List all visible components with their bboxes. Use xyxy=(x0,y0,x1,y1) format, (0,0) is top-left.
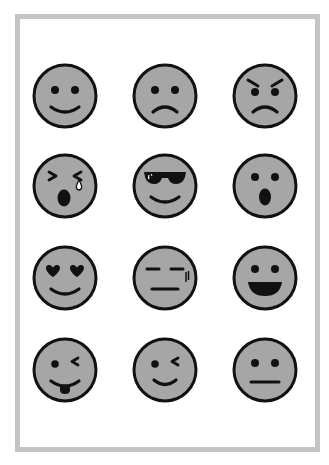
winking-face-icon: Winking face xyxy=(131,336,199,404)
grinning-face-icon: Grinning face with open mouth xyxy=(231,244,299,312)
crying-face-icon: Crying face with tear xyxy=(31,152,99,220)
neutral-face-icon: Neutral face xyxy=(231,336,299,404)
sunglasses-face-icon: Smiling face with sunglasses xyxy=(131,152,199,220)
surprised-face-icon: Surprised face xyxy=(231,152,299,220)
winking-tongue-face-icon: Winking face with tongue xyxy=(31,336,99,404)
smiling-face-icon: Smiling face xyxy=(31,62,99,130)
angry-face-icon: Angry face xyxy=(231,62,299,130)
heart-eyes-face-icon: Heart eyes face xyxy=(31,244,99,312)
unamused-face-icon: Unamused face xyxy=(131,244,199,312)
sad-face-icon: Sad face xyxy=(131,62,199,130)
